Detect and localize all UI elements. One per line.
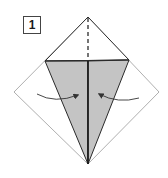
upper-triangle — [45, 17, 129, 61]
right-folded-flap — [88, 60, 129, 164]
origami-diagram — [0, 0, 168, 178]
left-folded-flap — [45, 61, 88, 164]
